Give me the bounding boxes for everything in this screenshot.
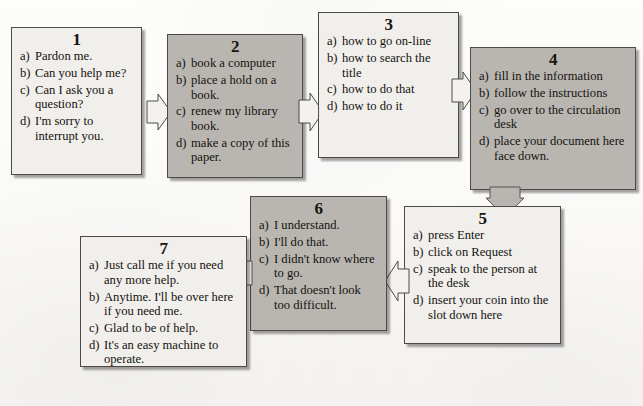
- option-text: renew my library book.: [191, 104, 278, 132]
- box-7-options: a)Just call me if you need any more help…: [89, 258, 239, 366]
- flow-box-4[interactable]: 4 a)fill in the information b)follow the…: [470, 47, 636, 190]
- option-label: a): [479, 69, 489, 83]
- box-number-1: 1: [20, 31, 134, 48]
- box-number-2: 2: [176, 38, 295, 55]
- option-label: c): [89, 321, 99, 335]
- list-item[interactable]: d)place your document here face down.: [479, 134, 628, 163]
- list-item[interactable]: b)I'll do that.: [259, 235, 379, 249]
- option-text: how to do that: [342, 82, 414, 96]
- option-label: d): [327, 99, 338, 113]
- option-label: d): [413, 293, 424, 307]
- option-text: how to do it: [342, 99, 403, 113]
- box-2-options: a)book a computer b)place a hold on a bo…: [176, 56, 295, 164]
- list-item[interactable]: d)I'm sorry to interrupt you.: [20, 114, 134, 143]
- option-label: c): [479, 103, 489, 117]
- option-text: Pardon me.: [35, 49, 92, 63]
- option-label: b): [20, 66, 31, 80]
- list-item[interactable]: d)insert your coin into the slot down he…: [413, 293, 553, 322]
- list-item[interactable]: d)how to do it: [327, 99, 451, 113]
- list-item[interactable]: d)That doesn't look too difficult.: [259, 283, 379, 312]
- box-6-options: a)I understand. b)I'll do that. c)I didn…: [259, 218, 379, 312]
- option-text: follow the instructions: [494, 86, 607, 100]
- box-3-options: a)how to go on-line b)how to search the …: [327, 34, 451, 113]
- option-text: speak to the person at the desk: [428, 262, 537, 290]
- list-item[interactable]: d)It's an easy machine to operate.: [89, 338, 239, 367]
- list-item[interactable]: c)Glad to be of help.: [89, 321, 239, 335]
- option-text: Anytime. I'll be over here if you need m…: [104, 290, 233, 318]
- option-text: I'll do that.: [274, 235, 328, 249]
- option-label: d): [479, 134, 490, 148]
- list-item[interactable]: b)follow the instructions: [479, 86, 628, 100]
- option-text: I understand.: [274, 218, 340, 232]
- box-number-7: 7: [89, 240, 239, 257]
- option-text: That doesn't look too difficult.: [274, 283, 361, 311]
- option-text: place a hold on a book.: [191, 73, 276, 101]
- flow-box-7[interactable]: 7 a)Just call me if you need any more he…: [80, 236, 247, 367]
- list-item[interactable]: c)Can I ask you a question?: [20, 83, 134, 112]
- option-text: place your document here face down.: [494, 134, 624, 162]
- option-text: I didn't know where to go.: [274, 252, 375, 280]
- list-item[interactable]: a)how to go on-line: [327, 34, 451, 48]
- list-item[interactable]: a)fill in the information: [479, 69, 628, 83]
- option-label: b): [89, 290, 100, 304]
- list-item[interactable]: b)Can you help me?: [20, 66, 134, 80]
- option-text: go over to the circulation desk: [494, 103, 621, 131]
- list-item[interactable]: c)speak to the person at the desk: [413, 262, 553, 291]
- option-text: how to go on-line: [342, 34, 431, 48]
- option-text: Glad to be of help.: [104, 321, 198, 335]
- option-label: a): [89, 258, 99, 272]
- option-text: make a copy of this paper.: [191, 136, 290, 164]
- option-text: It's an easy machine to operate.: [104, 338, 218, 366]
- list-item[interactable]: c)go over to the circulation desk: [479, 103, 628, 132]
- option-label: c): [20, 83, 30, 97]
- flow-box-2[interactable]: 2 a)book a computer b)place a hold on a …: [167, 34, 303, 178]
- list-item[interactable]: a)book a computer: [176, 56, 295, 70]
- list-item[interactable]: b)place a hold on a book.: [176, 73, 295, 102]
- option-label: d): [176, 136, 187, 150]
- option-label: b): [327, 51, 338, 65]
- option-label: c): [413, 262, 423, 276]
- option-label: b): [479, 86, 490, 100]
- option-text: Can you help me?: [35, 66, 126, 80]
- box-5-options: a)press Enter b)click on Request c)speak…: [413, 228, 553, 322]
- option-label: a): [413, 228, 423, 242]
- option-label: c): [176, 104, 186, 118]
- list-item[interactable]: c)I didn't know where to go.: [259, 252, 379, 281]
- list-item[interactable]: b)Anytime. I'll be over here if you need…: [89, 290, 239, 319]
- option-label: a): [259, 218, 269, 232]
- option-label: b): [176, 73, 187, 87]
- option-label: d): [20, 114, 31, 128]
- list-item[interactable]: a)press Enter: [413, 228, 553, 242]
- option-label: b): [413, 245, 424, 259]
- option-text: book a computer: [191, 56, 276, 70]
- option-text: Just call me if you need any more help.: [104, 258, 223, 286]
- option-label: d): [89, 338, 100, 352]
- flow-box-6[interactable]: 6 a)I understand. b)I'll do that. c)I di…: [250, 196, 387, 331]
- list-item[interactable]: a)Just call me if you need any more help…: [89, 258, 239, 287]
- list-item[interactable]: a)I understand.: [259, 218, 379, 232]
- box-number-5: 5: [413, 210, 553, 227]
- option-text: insert your coin into the slot down here: [428, 293, 548, 321]
- list-item[interactable]: d)make a copy of this paper.: [176, 136, 295, 165]
- list-item[interactable]: c)how to do that: [327, 82, 451, 96]
- box-number-6: 6: [259, 200, 379, 217]
- flow-box-1[interactable]: 1 a)Pardon me. b)Can you help me? c)Can …: [11, 27, 142, 175]
- box-number-4: 4: [479, 51, 628, 68]
- list-item[interactable]: a)Pardon me.: [20, 49, 134, 63]
- option-text: click on Request: [428, 245, 512, 259]
- option-text: fill in the information: [494, 69, 603, 83]
- flow-box-5[interactable]: 5 a)press Enter b)click on Request c)spe…: [404, 206, 561, 344]
- list-item[interactable]: c)renew my library book.: [176, 104, 295, 133]
- connector-arrow-5-to-6: [384, 260, 410, 302]
- list-item[interactable]: b)click on Request: [413, 245, 553, 259]
- flow-box-3[interactable]: 3 a)how to go on-line b)how to search th…: [318, 12, 459, 158]
- option-label: a): [176, 56, 186, 70]
- option-label: d): [259, 283, 270, 297]
- option-label: c): [327, 82, 337, 96]
- option-label: b): [259, 235, 270, 249]
- list-item[interactable]: b)how to search the title: [327, 51, 451, 80]
- box-4-options: a)fill in the information b)follow the i…: [479, 69, 628, 163]
- option-label: c): [259, 252, 269, 266]
- option-label: a): [20, 49, 30, 63]
- option-label: a): [327, 34, 337, 48]
